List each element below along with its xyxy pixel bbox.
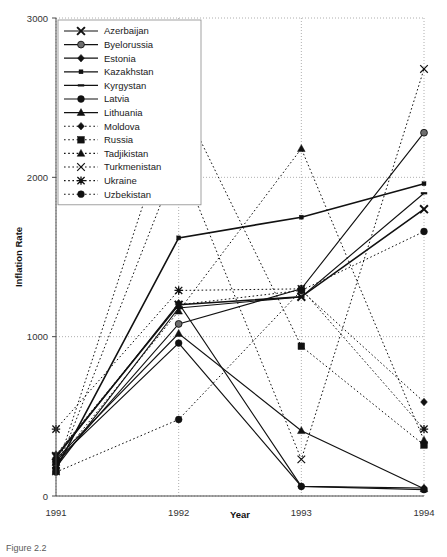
legend-label: Turkmenistan [104, 161, 161, 172]
series-line [56, 333, 424, 488]
legend-label: Azerbaijan [104, 25, 149, 36]
data-point-marker [421, 228, 428, 235]
data-point-marker [420, 205, 428, 213]
data-point-marker [420, 425, 428, 433]
data-point-marker [78, 191, 85, 198]
series-line [56, 184, 424, 469]
y-axis-tick-label: 3000 [27, 13, 48, 24]
data-point-marker [79, 70, 83, 74]
inflation-rate-line-chart: 01000200030001991199219931994 YearInflat… [0, 0, 447, 557]
data-point-marker [175, 340, 182, 347]
axis-titles-group: YearInflation Rate [13, 227, 250, 520]
data-point-marker [421, 192, 427, 194]
data-point-marker [175, 321, 182, 328]
legend-label: Byelorussia [104, 39, 154, 50]
legend-label: Russia [104, 134, 134, 145]
data-point-marker [78, 96, 85, 103]
data-point-marker [78, 84, 84, 86]
legend-label: Uzbekistan [104, 189, 151, 200]
y-axis-title: Inflation Rate [13, 227, 24, 287]
data-point-marker [177, 236, 181, 240]
legend-label: Moldova [104, 121, 141, 132]
legend-label: Kazakhstan [104, 66, 154, 77]
x-axis-tick-label: 1991 [45, 507, 66, 518]
series-line [56, 290, 424, 454]
series-estonia [53, 299, 428, 491]
series-line [56, 193, 424, 467]
data-point-marker [298, 145, 306, 152]
data-point-marker [299, 215, 303, 219]
figure-container: 01000200030001991199219931994 YearInflat… [0, 0, 447, 557]
series-azerbaijan [52, 205, 428, 460]
y-axis-tick-label: 2000 [27, 172, 48, 183]
legend-label: Kyrgystan [104, 80, 146, 91]
legend-label: Lithuania [104, 107, 143, 118]
data-point-marker [422, 182, 426, 186]
data-point-marker [175, 329, 183, 336]
series-moldova [53, 287, 428, 459]
legend-label: Estonia [104, 53, 136, 64]
data-point-marker [298, 427, 306, 434]
x-axis-title: Year [230, 509, 250, 520]
series-uzbekistan [53, 228, 428, 475]
data-point-marker [421, 129, 428, 136]
data-point-marker [78, 41, 85, 48]
series-latvia [53, 340, 428, 493]
y-axis-tick-label: 0 [43, 491, 48, 502]
data-point-marker [77, 176, 85, 184]
x-axis-tick-label: 1992 [168, 507, 189, 518]
data-point-marker [298, 296, 304, 298]
caption-label: Figure 2.2 [6, 543, 47, 553]
data-point-marker [78, 137, 85, 144]
data-point-marker [421, 398, 428, 406]
legend-label: Tadjikistan [104, 148, 148, 159]
data-point-marker [298, 287, 305, 294]
data-point-marker [420, 436, 428, 443]
data-point-marker [298, 343, 305, 350]
series-kyrgystan [53, 192, 427, 468]
x-axis-tick-label: 1993 [291, 507, 312, 518]
x-axis-tick-label: 1994 [413, 507, 434, 518]
y-axis-tick-label: 1000 [27, 331, 48, 342]
data-point-marker [175, 416, 182, 423]
data-point-marker [174, 286, 182, 294]
series-kazakhstan [54, 182, 426, 471]
legend-label: Latvia [104, 93, 130, 104]
legend-label: Ukraine [104, 175, 137, 186]
data-point-marker [298, 483, 305, 490]
figure-caption: Figure 2.2 [6, 543, 47, 553]
chart-legend[interactable]: AzerbaijanByelorussiaEstoniaKazakhstanKy… [58, 20, 201, 205]
